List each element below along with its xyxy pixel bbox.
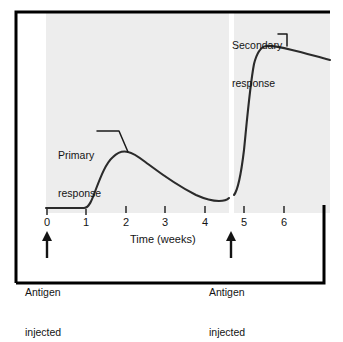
secondary-response-annotation-line-2: response bbox=[232, 77, 282, 90]
antigen-injected-caption-2-line-1: Antigen bbox=[209, 286, 245, 299]
secondary-response-annotation: Secondary response bbox=[232, 14, 282, 115]
antigen-injected-caption-1: Antigen injected bbox=[25, 260, 61, 342]
antigen-injected-caption-2-line-2: injected bbox=[209, 326, 245, 339]
x-tick-label-4: 4 bbox=[195, 216, 215, 228]
antigen-injected-caption-1-line-2: injected bbox=[25, 326, 61, 339]
primary-response-annotation: Primary response bbox=[58, 124, 101, 225]
primary-response-annotation-line-1: Primary bbox=[58, 149, 101, 162]
x-tick-label-3: 3 bbox=[155, 216, 175, 228]
x-tick-label-6: 6 bbox=[274, 216, 294, 228]
y-axis-label: Relative antibody concentration in blood… bbox=[0, 109, 22, 299]
primary-response-annotation-line-2: response bbox=[58, 187, 101, 200]
secondary-response-annotation-line-1: Secondary bbox=[232, 39, 282, 52]
antigen-injection-arrow-1 bbox=[42, 231, 52, 258]
antigen-injected-caption-2: Antigen injected bbox=[209, 260, 245, 342]
x-axis-label: Time (weeks) bbox=[130, 233, 196, 245]
x-tick-label-5: 5 bbox=[234, 216, 254, 228]
x-tick-label-2: 2 bbox=[116, 216, 136, 228]
x-tick-label-0: 0 bbox=[37, 216, 57, 228]
antigen-injection-arrow-2 bbox=[226, 231, 236, 258]
antigen-injected-caption-1-line-1: Antigen bbox=[25, 286, 61, 299]
